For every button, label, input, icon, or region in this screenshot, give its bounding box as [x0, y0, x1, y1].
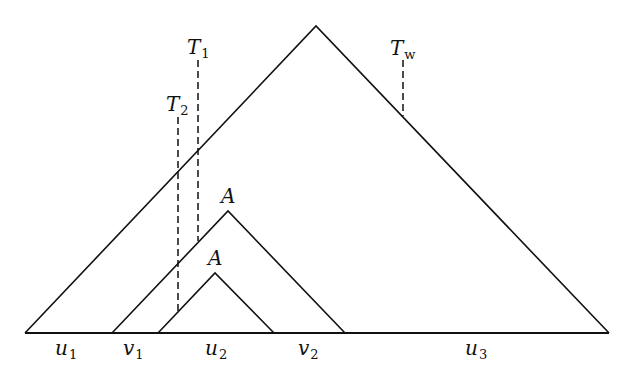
label-v1: v1	[123, 338, 144, 361]
label-T1: T1	[187, 37, 210, 60]
tree-diagram	[0, 0, 632, 383]
label-A-inner: A	[208, 248, 222, 268]
middle-triangle-A	[112, 211, 345, 333]
label-A-middle: A	[221, 186, 235, 206]
label-T2: T2	[166, 94, 189, 117]
outer-triangle	[25, 26, 609, 333]
inner-triangle-A	[158, 273, 274, 333]
label-u2: u2	[205, 338, 227, 361]
label-u3: u3	[465, 338, 487, 361]
label-Tw: Tw	[390, 38, 415, 61]
label-u1: u1	[55, 338, 77, 361]
label-v2: v2	[298, 338, 319, 361]
